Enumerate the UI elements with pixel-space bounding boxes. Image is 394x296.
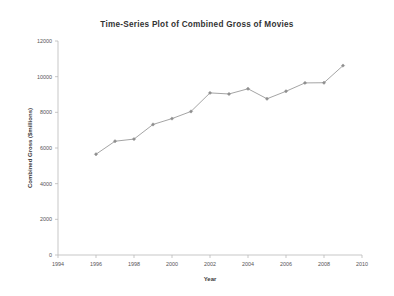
x-tick-label: 1998 (128, 261, 140, 267)
x-tick-label: 2008 (318, 261, 330, 267)
y-tick-label: 10000 (37, 74, 52, 80)
line-chart-plot: 020004000600080001000012000 199419961998… (0, 0, 394, 296)
x-tick-label: 2000 (166, 261, 178, 267)
y-tick-label: 6000 (40, 145, 52, 151)
x-axis-title: Year (204, 276, 217, 282)
x-tick-label: 1996 (90, 261, 102, 267)
y-axis-title: Combined Gross ($millions) (27, 108, 33, 188)
series-line-combined-gross (96, 66, 343, 155)
data-point-marker (284, 90, 287, 93)
x-tick-label: 2010 (356, 261, 368, 267)
data-point-marker (265, 97, 268, 100)
y-axis-ticks: 020004000600080001000012000 (37, 38, 58, 258)
y-tick-label: 2000 (40, 216, 52, 222)
data-point-marker (170, 117, 173, 120)
x-tick-label: 2004 (242, 261, 254, 267)
data-point-marker (303, 81, 306, 84)
y-tick-label: 12000 (37, 38, 52, 44)
series-markers (94, 64, 344, 156)
y-tick-label: 4000 (40, 181, 52, 187)
data-point-marker (227, 92, 230, 95)
x-tick-label: 2002 (204, 261, 216, 267)
x-axis-ticks: 199419961998200020022004200620082010 (52, 255, 368, 267)
x-tick-label: 1994 (52, 261, 64, 267)
chart-figure: Time-Series Plot of Combined Gross of Mo… (0, 0, 394, 296)
data-point-marker (246, 87, 249, 90)
y-tick-label: 8000 (40, 109, 52, 115)
y-tick-label: 0 (49, 252, 52, 258)
x-tick-label: 2006 (280, 261, 292, 267)
